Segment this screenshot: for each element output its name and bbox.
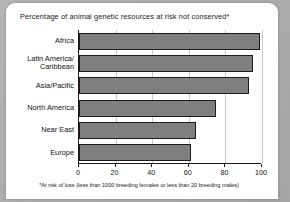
- x-tick-label-80: 80: [220, 168, 228, 177]
- chart-card: Percentage of animal genetic resources a…: [6, 3, 278, 199]
- bar-europe: [79, 144, 191, 161]
- x-tick-label-20: 20: [111, 168, 119, 177]
- x-tick-60: [188, 164, 189, 167]
- bar-fill: [79, 144, 191, 161]
- y-axis-label: Europe: [50, 149, 74, 158]
- bar-africa: [79, 33, 260, 50]
- bar-north-america: [79, 100, 216, 117]
- gridline-20: [116, 30, 117, 163]
- x-tick-label-100: 100: [255, 168, 267, 177]
- bar-asia-pacific: [79, 77, 249, 94]
- y-axis-label: Near East: [41, 126, 74, 135]
- chart-footnote: *At risk of loss (less than 1000 breedin…: [6, 182, 272, 188]
- x-tick-0: [78, 164, 79, 167]
- bar-latin-america-caribbean: [79, 55, 253, 72]
- x-axis-ticks: [78, 164, 261, 168]
- plot-area: [78, 30, 261, 164]
- x-tick-label-0: 0: [76, 168, 80, 177]
- gridline-100: [262, 30, 263, 163]
- x-tick-40: [151, 164, 152, 167]
- bar-fill: [79, 33, 260, 50]
- y-axis-label: North America: [27, 104, 74, 113]
- y-axis-label: Africa: [55, 37, 74, 46]
- screenshot-canvas: Percentage of animal genetic resources a…: [0, 0, 290, 202]
- x-tick-100: [261, 164, 262, 167]
- bar-fill: [79, 122, 196, 139]
- gridline-40: [152, 30, 153, 163]
- y-axis-category-labels: AfricaLatin America/ CaribbeanAsia/Pacif…: [6, 30, 74, 164]
- bar-near-east: [79, 122, 196, 139]
- x-tick-20: [115, 164, 116, 167]
- bar-fill: [79, 77, 249, 94]
- bar-fill: [79, 55, 253, 72]
- gridline-60: [189, 30, 190, 163]
- x-tick-label-40: 40: [147, 168, 155, 177]
- bar-fill: [79, 100, 216, 117]
- x-tick-80: [224, 164, 225, 167]
- gridline-80: [225, 30, 226, 163]
- chart-title: Percentage of animal genetic resources a…: [20, 12, 229, 21]
- y-axis-label: Latin America/ Caribbean: [27, 55, 74, 72]
- x-tick-label-60: 60: [184, 168, 192, 177]
- y-axis-label: Asia/Pacific: [36, 82, 74, 91]
